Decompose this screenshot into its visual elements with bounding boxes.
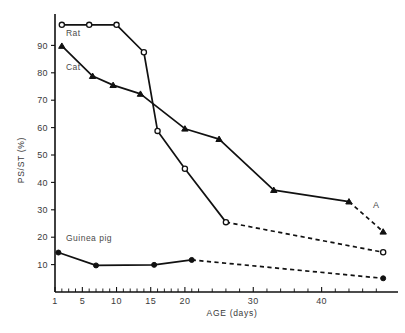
data-point-marker xyxy=(87,22,92,27)
data-point-marker xyxy=(380,229,386,234)
series-label-rat: Rat xyxy=(66,28,81,38)
panel-label-a: A xyxy=(373,200,379,210)
series-line-solid xyxy=(58,253,191,266)
x-tick-label: 20 xyxy=(179,296,190,306)
data-point-marker xyxy=(381,276,386,281)
x-tick-label: 10 xyxy=(111,296,122,306)
data-point-marker xyxy=(152,262,157,267)
chart-annotations: A xyxy=(373,200,379,210)
data-point-marker xyxy=(381,250,386,255)
data-point-marker xyxy=(114,22,119,27)
series-label-cat: Cat xyxy=(66,62,81,72)
data-point-marker xyxy=(59,43,65,48)
y-axis-tick-labels: 102030405060708090 xyxy=(37,41,48,270)
data-point-marker xyxy=(182,166,187,171)
figure-panel: 151015203040 102030405060708090 RatCatGu… xyxy=(0,0,405,333)
y-axis-title: PS/ST (%) xyxy=(16,137,26,183)
data-point-marker xyxy=(141,50,146,55)
series-inline-labels: RatCatGuinea pig xyxy=(66,28,112,244)
y-tick-label: 70 xyxy=(37,95,48,105)
y-tick-label: 90 xyxy=(37,41,48,51)
y-tick-label: 60 xyxy=(37,123,48,133)
data-point-marker xyxy=(94,263,99,268)
data-point-marker xyxy=(189,257,194,262)
series-rat xyxy=(59,22,386,255)
y-tick-label: 30 xyxy=(37,205,48,215)
y-tick-label: 50 xyxy=(37,150,48,160)
chart-axes xyxy=(55,14,398,292)
x-axis-tick-labels: 151015203040 xyxy=(52,296,327,306)
x-tick-label: 5 xyxy=(80,296,85,306)
y-tick-label: 10 xyxy=(37,260,48,270)
series-label-guinea-pig: Guinea pig xyxy=(66,233,112,243)
x-tick-label: 15 xyxy=(145,296,156,306)
data-point-marker xyxy=(155,128,160,133)
x-tick-label: 40 xyxy=(316,296,327,306)
x-axis-title: AGE (days) xyxy=(207,308,258,318)
data-point-marker xyxy=(223,220,228,225)
line-chart: 151015203040 102030405060708090 RatCatGu… xyxy=(0,0,405,333)
y-tick-label: 80 xyxy=(37,68,48,78)
series-line-dashed xyxy=(192,260,383,278)
series-cat xyxy=(59,43,387,234)
data-point-marker xyxy=(59,22,64,27)
x-tick-label: 1 xyxy=(52,296,57,306)
y-tick-label: 40 xyxy=(37,178,48,188)
series-line-solid xyxy=(62,46,349,202)
series-guinea-pig xyxy=(56,250,386,281)
y-tick-label: 20 xyxy=(37,232,48,242)
x-tick-label: 30 xyxy=(248,296,259,306)
data-point-marker xyxy=(56,250,61,255)
series-line-dashed xyxy=(226,222,383,252)
